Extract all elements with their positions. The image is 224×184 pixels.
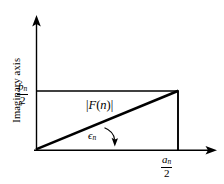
real-axis <box>34 146 217 155</box>
angle-label: ϵn <box>88 130 96 142</box>
angle-arc <box>105 128 115 140</box>
magnitude-label: |F(n)| <box>86 99 113 112</box>
y-axis-value-label: bn 2 <box>17 81 28 107</box>
x-axis-value-numerator: an <box>161 154 172 168</box>
y-axis-value-subscript: n <box>24 84 28 93</box>
x-axis-value-subscript: n <box>168 157 172 166</box>
phasor-diagram-figure: Imaginary axis bn 2 an 2 |F(n)| ϵn <box>0 0 224 184</box>
magnitude-close-bar: | <box>111 98 114 112</box>
y-axis-value-numerator: bn <box>17 81 28 95</box>
x-axis-value-denominator: 2 <box>161 168 172 180</box>
angle-subscript: n <box>92 133 96 142</box>
imaginary-axis <box>32 15 41 151</box>
y-axis-value-denominator: 2 <box>17 95 28 107</box>
x-axis-value-label: an 2 <box>161 154 172 180</box>
diagram-canvas <box>0 0 224 184</box>
magnitude-function-symbol: F <box>89 98 97 112</box>
